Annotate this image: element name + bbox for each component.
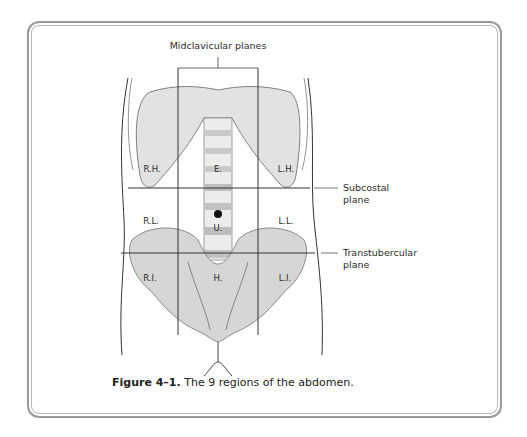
figure-number: Figure 4–1. — [112, 376, 181, 389]
umbilicus-dot — [214, 210, 222, 218]
body-outline-right-inner — [302, 78, 308, 170]
subcostal-label-line2: plane — [343, 194, 370, 205]
transtubercular-label-line2: plane — [343, 259, 370, 270]
region-right-iliac: R.I. — [143, 273, 157, 283]
region-epigastric: E. — [214, 164, 222, 174]
abdomen-diagram: Midclavicular planes Subcostal plane Tra… — [0, 0, 527, 437]
body-outline-left — [121, 78, 128, 355]
region-right-lumbar: R.L. — [143, 216, 159, 226]
body-outline-right — [308, 78, 322, 355]
region-right-hypochondriac: R.H. — [143, 164, 160, 174]
region-left-lumbar: L.L. — [279, 216, 294, 226]
spine — [204, 118, 232, 260]
region-left-iliac: L.I. — [279, 273, 292, 283]
figure-caption: Figure 4–1. The 9 regions of the abdomen… — [112, 376, 354, 389]
midclavicular-bracket — [178, 57, 258, 68]
region-hypogastric: H. — [214, 273, 223, 283]
midclavicular-label: Midclavicular planes — [170, 40, 267, 51]
region-umbilical: U. — [214, 223, 223, 233]
region-left-hypochondriac: L.H. — [278, 164, 294, 174]
subcostal-label-line1: Subcostal — [343, 182, 389, 193]
figure-caption-text: The 9 regions of the abdomen. — [184, 376, 354, 389]
pubic-line — [204, 342, 232, 376]
transtubercular-label-line1: Transtubercular — [342, 247, 417, 258]
body-outline-left-inner — [128, 78, 133, 170]
